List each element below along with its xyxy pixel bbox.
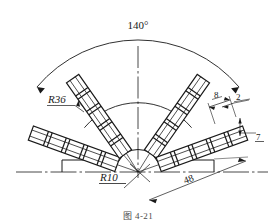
arc-arrow-left xyxy=(37,87,45,93)
radius-10-label: R10 xyxy=(99,171,118,183)
figure-caption: 图 4-21 xyxy=(0,207,276,223)
angle-140-label: 140° xyxy=(128,19,149,31)
dimension-width-2: 2 xyxy=(222,92,250,109)
radius-10-annotation: R10 xyxy=(99,171,126,184)
thickness-7-label: 7 xyxy=(256,132,261,142)
length-48-label: 48 xyxy=(182,172,195,186)
engineering-drawing-canvas: 8 2 7 48 140° R36 R10 xyxy=(0,0,276,223)
radius-36-label: R36 xyxy=(47,93,66,105)
